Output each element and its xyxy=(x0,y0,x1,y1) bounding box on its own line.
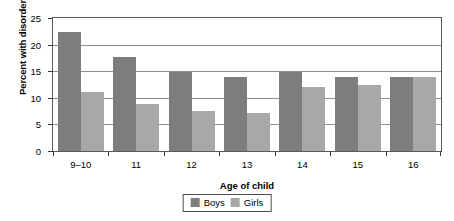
y-axis-title: Percent with disorder xyxy=(17,0,28,118)
bar-group: 11 xyxy=(108,18,163,151)
bar-chart: Percent with disorder 0510152025 9–10111… xyxy=(0,0,454,221)
x-axis-tick-label: 9–10 xyxy=(70,159,91,170)
legend-swatch-boys-icon xyxy=(191,198,200,207)
bar-boys-11 xyxy=(113,57,136,151)
x-axis-tick xyxy=(275,151,276,156)
bar-girls-14 xyxy=(302,87,325,151)
y-axis-tick-label: 0 xyxy=(36,146,41,157)
y-axis-tick-label: 25 xyxy=(30,13,41,24)
x-axis-tick xyxy=(53,151,54,156)
x-axis-tick xyxy=(440,151,441,156)
bar-girls-13 xyxy=(247,113,270,151)
legend-item-boys: Boys xyxy=(191,197,225,208)
legend-label: Girls xyxy=(244,197,264,208)
x-axis-tick xyxy=(386,151,387,156)
y-axis-tick-label: 20 xyxy=(30,39,41,50)
x-axis-tick xyxy=(330,151,331,156)
bar-girls-12 xyxy=(192,111,215,151)
bar-group: 15 xyxy=(330,18,385,151)
legend-swatch-girls-icon xyxy=(231,198,240,207)
y-axis-tick-label: 10 xyxy=(30,92,41,103)
bar-group: 16 xyxy=(386,18,441,151)
bar-group: 13 xyxy=(219,18,274,151)
bar-boys-9-10 xyxy=(58,32,81,151)
bar-girls-15 xyxy=(358,85,381,151)
x-axis-tick-label: 13 xyxy=(242,159,253,170)
bar-groups: 9–10111213141516 xyxy=(53,18,441,151)
bar-boys-14 xyxy=(279,72,302,151)
bar-boys-12 xyxy=(169,72,192,151)
bar-boys-13 xyxy=(224,77,247,151)
bar-boys-16 xyxy=(390,77,413,151)
bar-group: 9–10 xyxy=(53,18,108,151)
legend-label: Boys xyxy=(204,197,225,208)
bar-boys-15 xyxy=(335,77,358,151)
y-axis-tick-label: 15 xyxy=(30,66,41,77)
plot-area: 0510152025 9–10111213141516 xyxy=(52,17,442,152)
x-axis-title: Age of child xyxy=(52,180,442,191)
x-axis-tick-label: 14 xyxy=(297,159,308,170)
bar-girls-9-10 xyxy=(81,92,104,151)
bar-group: 12 xyxy=(164,18,219,151)
x-axis-tick xyxy=(108,151,109,156)
x-axis-tick-label: 16 xyxy=(408,159,419,170)
x-axis-tick xyxy=(164,151,165,156)
bar-girls-11 xyxy=(136,104,159,151)
x-axis-tick-label: 11 xyxy=(131,159,141,170)
chart-legend: BoysGirls xyxy=(183,194,272,212)
x-axis-tick xyxy=(219,151,220,156)
bar-group: 14 xyxy=(275,18,330,151)
bar-girls-16 xyxy=(413,77,436,151)
y-axis-tick-label: 5 xyxy=(36,119,41,130)
x-axis-tick-label: 15 xyxy=(353,159,364,170)
legend-item-girls: Girls xyxy=(231,197,264,208)
x-axis-tick-label: 12 xyxy=(186,159,197,170)
